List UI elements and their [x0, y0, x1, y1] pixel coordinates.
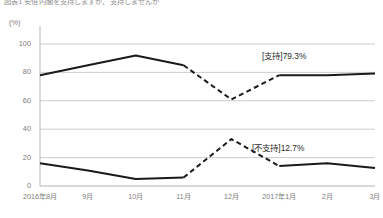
chart-plot-area: [0, 0, 383, 218]
series-不支持-segment-2: [279, 163, 375, 168]
chart-container: 図表1 安倍内閣を支持しますか、支持しませんか (%) 020406080100…: [0, 0, 383, 218]
series-不支持-segment-0: [40, 163, 184, 179]
chart-series-layer: [40, 55, 375, 178]
series-支持-segment-2: [279, 73, 375, 75]
oppose-value-annotation: [不支持]12.7%: [252, 143, 304, 153]
support-value-annotation: [支持]79.3%: [262, 51, 306, 61]
series-支持-segment-1: [184, 65, 280, 99]
